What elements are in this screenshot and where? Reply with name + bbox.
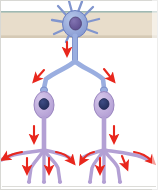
neuron-diagram-canvas bbox=[0, 0, 158, 190]
postganglionic-neuron-right bbox=[94, 92, 114, 119]
postganglionic-nucleus-left bbox=[39, 99, 49, 110]
figure-inner-margin-right bbox=[152, 0, 158, 190]
postganglionic-neuron-left bbox=[34, 92, 54, 119]
preganglionic-nucleus bbox=[70, 17, 82, 30]
neural-pathway-figure bbox=[0, 0, 158, 190]
postganglionic-nucleus-right bbox=[99, 99, 109, 110]
